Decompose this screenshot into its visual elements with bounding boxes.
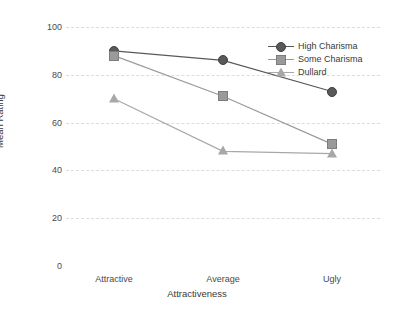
data-point-square <box>218 91 228 101</box>
data-point-triangle <box>109 93 119 102</box>
y-tick-label: 0 <box>4 261 62 271</box>
y-tick-label: 80 <box>4 70 62 80</box>
legend-key-icon <box>268 66 294 79</box>
data-point-square <box>109 51 119 61</box>
x-tick-label: Attractive <box>95 274 133 284</box>
y-tick-label: 40 <box>4 165 62 175</box>
y-tick-label: 100 <box>4 22 62 32</box>
legend-label: High Charisma <box>298 40 358 53</box>
x-tick-label: Average <box>206 274 239 284</box>
y-tick-label: 20 <box>4 213 62 223</box>
legend-label: Dullard <box>298 66 327 79</box>
y-axis-title: Mean Rating <box>0 94 5 148</box>
data-point-triangle <box>218 146 228 155</box>
data-point-triangle <box>327 148 337 157</box>
x-tick-label: Ugly <box>323 274 341 284</box>
data-point-circle <box>327 87 337 97</box>
y-tick-label: 60 <box>4 118 62 128</box>
legend-item-triangle[interactable]: Dullard <box>268 66 363 79</box>
legend-key-icon <box>268 53 294 66</box>
legend-item-square[interactable]: Some Charisma <box>268 53 363 66</box>
legend-key-icon <box>268 40 294 53</box>
legend-label: Some Charisma <box>298 53 363 66</box>
legend: High CharismaSome CharismaDullard <box>268 40 363 79</box>
x-axis-title: Attractiveness <box>0 288 394 299</box>
legend-item-circle[interactable]: High Charisma <box>268 40 363 53</box>
data-point-circle <box>218 55 228 65</box>
line-chart: 020406080100 AttractiveAverageUgly Mean … <box>0 0 394 319</box>
